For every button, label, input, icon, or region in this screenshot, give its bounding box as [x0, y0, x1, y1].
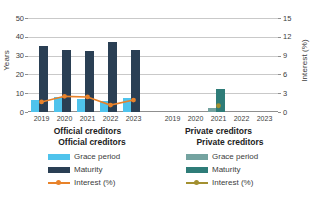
y-tick-left-50: 50 — [2, 14, 24, 23]
legend-bar-swatch-icon — [48, 154, 70, 160]
bar-slot-2023 — [253, 18, 276, 112]
y-tick-right-12: 12 — [283, 32, 297, 41]
x-tick-private-2019: 2019 — [162, 115, 184, 122]
legend-item-maturity[interactable]: Maturity — [22, 163, 162, 176]
legend-bar-swatch-icon — [186, 167, 208, 173]
bar-slot-2021 — [76, 18, 99, 112]
x-tick-official-2020: 2020 — [54, 115, 76, 122]
bar-maturity-2022 — [108, 42, 117, 113]
legend-item-label: Grace period — [212, 152, 258, 161]
legend-bar-swatch-icon — [186, 154, 208, 160]
tickmark-left-0 — [25, 112, 28, 113]
legend-item-label: Interest (%) — [74, 178, 115, 187]
group-caption-private: Private creditors — [159, 126, 279, 136]
chart-container: Years Interest (%) 50403020100 15129630 … — [0, 0, 310, 198]
tickmark-right-6 — [278, 74, 281, 75]
group-caption-official: Official creditors — [28, 126, 148, 136]
x-tick-private-2020: 2020 — [185, 115, 207, 122]
x-tick-official-2021: 2021 — [77, 115, 99, 122]
chart-legend: Official creditors Grace periodMaturityI… — [0, 137, 310, 198]
tickmark-right-15 — [278, 18, 281, 19]
bar-slot-2020 — [53, 18, 76, 112]
tickmark-left-40 — [25, 37, 28, 38]
bar-maturity-2023 — [131, 50, 140, 112]
x-tick-official-2023: 2023 — [123, 115, 145, 122]
legend-item-interest[interactable]: Interest (%) — [22, 176, 162, 189]
tickmark-left-10 — [25, 93, 28, 94]
legend-items-official: Grace periodMaturityInterest (%) — [22, 150, 162, 189]
y-tick-right-9: 9 — [283, 51, 297, 60]
bar-slot-2020 — [184, 18, 207, 112]
x-tick-official-2019: 2019 — [31, 115, 53, 122]
legend-item-grace-period[interactable]: Grace period — [22, 150, 162, 163]
legend-column-official: Official creditors Grace periodMaturityI… — [22, 137, 162, 189]
tickmark-left-20 — [25, 74, 28, 75]
bar-slot-2022 — [99, 18, 122, 112]
bar-maturity-2021 — [216, 89, 225, 112]
legend-item-label: Maturity — [74, 165, 102, 174]
y-tick-right-15: 15 — [283, 14, 297, 23]
legend-item-maturity[interactable]: Maturity — [160, 163, 300, 176]
y-tick-left-10: 10 — [2, 89, 24, 98]
bar-slot-2022 — [230, 18, 253, 112]
x-tick-private-2021: 2021 — [208, 115, 230, 122]
y-tick-left-40: 40 — [2, 32, 24, 41]
x-tick-private-2023: 2023 — [254, 115, 276, 122]
tickmark-right-0 — [278, 112, 281, 113]
bar-maturity-2021 — [85, 51, 94, 112]
bar-slot-2019 — [161, 18, 184, 112]
bar-slot-2023 — [122, 18, 145, 112]
tickmark-right-12 — [278, 37, 281, 38]
legend-line-swatch-icon — [48, 179, 70, 186]
bar-group-private-creditors — [161, 18, 276, 112]
legend-column-private: Private creditors Grace periodMaturityIn… — [160, 137, 300, 189]
legend-item-label: Grace period — [74, 152, 120, 161]
plot-area — [28, 18, 278, 112]
legend-heading-official: Official creditors — [22, 137, 162, 147]
bar-maturity-2020 — [62, 50, 71, 112]
legend-items-private: Grace periodMaturityInterest (%) — [160, 150, 300, 189]
tickmark-right-9 — [278, 56, 281, 57]
legend-line-swatch-icon — [186, 179, 208, 186]
y-tick-left-30: 30 — [2, 51, 24, 60]
x-tick-private-2022: 2022 — [231, 115, 253, 122]
y-tick-right-0: 0 — [283, 108, 297, 117]
tickmark-right-3 — [278, 93, 281, 94]
y-tick-right-3: 3 — [283, 89, 297, 98]
y-tick-left-20: 20 — [2, 70, 24, 79]
legend-heading-private: Private creditors — [160, 137, 300, 147]
y-tick-right-6: 6 — [283, 70, 297, 79]
x-tick-official-2022: 2022 — [100, 115, 122, 122]
y-axis-title-right: Interest (%) — [300, 37, 309, 85]
bar-maturity-2019 — [39, 46, 48, 112]
bar-slot-2021 — [207, 18, 230, 112]
y-tick-left-0: 0 — [2, 108, 24, 117]
legend-item-interest[interactable]: Interest (%) — [160, 176, 300, 189]
tickmark-left-30 — [25, 56, 28, 57]
bar-slot-2019 — [30, 18, 53, 112]
legend-bar-swatch-icon — [48, 167, 70, 173]
legend-item-label: Maturity — [212, 165, 240, 174]
legend-item-grace-period[interactable]: Grace period — [160, 150, 300, 163]
tickmark-left-50 — [25, 18, 28, 19]
bar-group-official-creditors — [30, 18, 145, 112]
legend-item-label: Interest (%) — [212, 178, 253, 187]
